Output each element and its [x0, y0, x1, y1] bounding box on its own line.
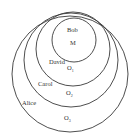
symbol-bob: M — [70, 39, 76, 46]
symbol-carol: O2 — [66, 89, 73, 98]
symbol-alice: O3 — [64, 114, 71, 123]
label-bob: Bob — [67, 26, 78, 33]
label-alice: Alice — [22, 99, 36, 106]
circle-alice — [12, 16, 128, 132]
nested-circle-diagram: AliceO3CarolO2DavidO1BobM — [0, 0, 139, 138]
label-david: David — [49, 58, 66, 65]
label-carol: Carol — [38, 80, 53, 87]
circle-david — [36, 12, 110, 86]
symbol-david: O1 — [67, 64, 74, 73]
diagram-canvas: AliceO3CarolO2DavidO1BobM — [0, 0, 139, 138]
